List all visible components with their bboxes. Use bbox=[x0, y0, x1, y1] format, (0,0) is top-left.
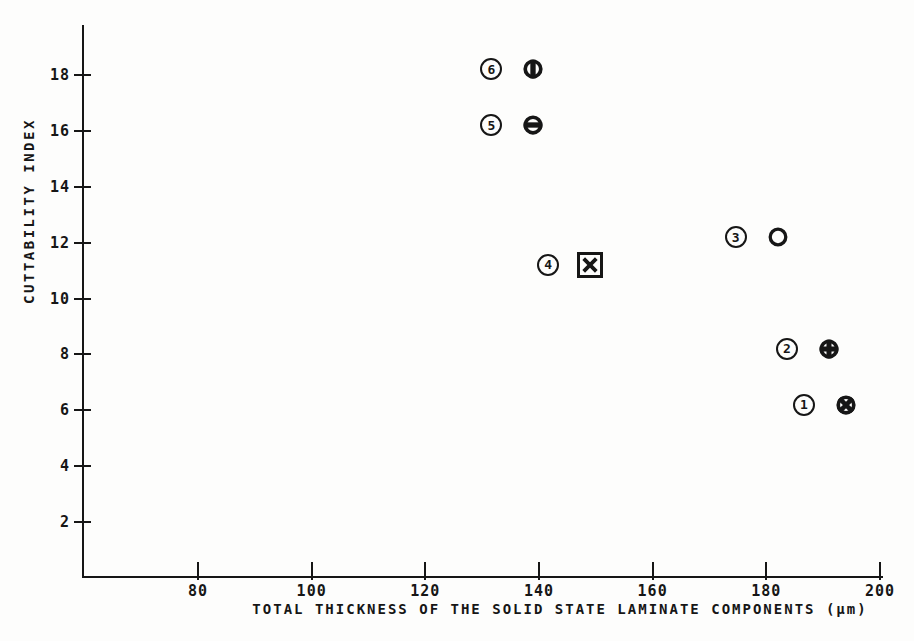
circle-horizontal-bar-marker-icon bbox=[522, 114, 544, 136]
y-axis-line bbox=[82, 25, 84, 578]
y-tick-mark bbox=[74, 353, 91, 355]
point-number-label: 6 bbox=[480, 58, 502, 80]
x-tick-mark bbox=[424, 562, 426, 580]
point-number-label: 2 bbox=[776, 338, 798, 360]
x-tick-mark bbox=[765, 562, 767, 580]
y-tick-mark bbox=[74, 74, 91, 76]
point-number-label: 1 bbox=[793, 394, 815, 416]
y-tick-label: 18 bbox=[26, 66, 70, 84]
y-axis-title: CUTTABILITY INDEX bbox=[21, 111, 41, 311]
x-tick-mark bbox=[311, 562, 313, 580]
x-tick-label: 140 bbox=[509, 582, 569, 600]
y-tick-mark bbox=[74, 186, 91, 188]
circle-plus-marker-icon bbox=[818, 338, 840, 360]
y-tick-label: 6 bbox=[26, 401, 70, 419]
point-number-label: 4 bbox=[537, 254, 559, 276]
x-tick-label: 120 bbox=[395, 582, 455, 600]
x-tick-mark bbox=[652, 562, 654, 580]
y-tick-label: 16 bbox=[26, 122, 70, 140]
x-tick-mark bbox=[879, 562, 881, 580]
y-tick-label: 14 bbox=[26, 178, 70, 196]
x-tick-label: 200 bbox=[850, 582, 910, 600]
x-tick-label: 80 bbox=[168, 582, 228, 600]
scatter-plot-figure: CUTTABILITY INDEX TOTAL THICKNESS OF THE… bbox=[0, 0, 914, 641]
x-tick-mark bbox=[197, 562, 199, 580]
circle-x-marker-icon bbox=[835, 394, 857, 416]
x-axis-line bbox=[82, 576, 883, 578]
y-tick-mark bbox=[74, 242, 91, 244]
y-tick-label: 12 bbox=[26, 234, 70, 252]
y-tick-mark bbox=[74, 521, 91, 523]
y-tick-mark bbox=[74, 465, 91, 467]
point-number-label: 5 bbox=[480, 114, 502, 136]
x-axis-title: TOTAL THICKNESS OF THE SOLID STATE LAMIN… bbox=[210, 601, 910, 617]
y-tick-mark bbox=[74, 130, 91, 132]
point-number-label: 3 bbox=[725, 226, 747, 248]
x-tick-label: 100 bbox=[282, 582, 342, 600]
open-circle-marker-icon bbox=[767, 226, 789, 248]
x-tick-mark bbox=[538, 562, 540, 580]
y-tick-label: 10 bbox=[26, 290, 70, 308]
scanned-chart-page: CUTTABILITY INDEX TOTAL THICKNESS OF THE… bbox=[0, 0, 914, 641]
square-x-marker-icon bbox=[577, 251, 604, 278]
x-tick-label: 180 bbox=[736, 582, 796, 600]
y-tick-label: 4 bbox=[26, 457, 70, 475]
x-tick-label: 160 bbox=[623, 582, 683, 600]
y-tick-label: 8 bbox=[26, 345, 70, 363]
circle-vertical-bar-marker-icon bbox=[522, 58, 544, 80]
y-tick-label: 2 bbox=[26, 513, 70, 531]
y-tick-mark bbox=[74, 298, 91, 300]
y-tick-mark bbox=[74, 409, 91, 411]
